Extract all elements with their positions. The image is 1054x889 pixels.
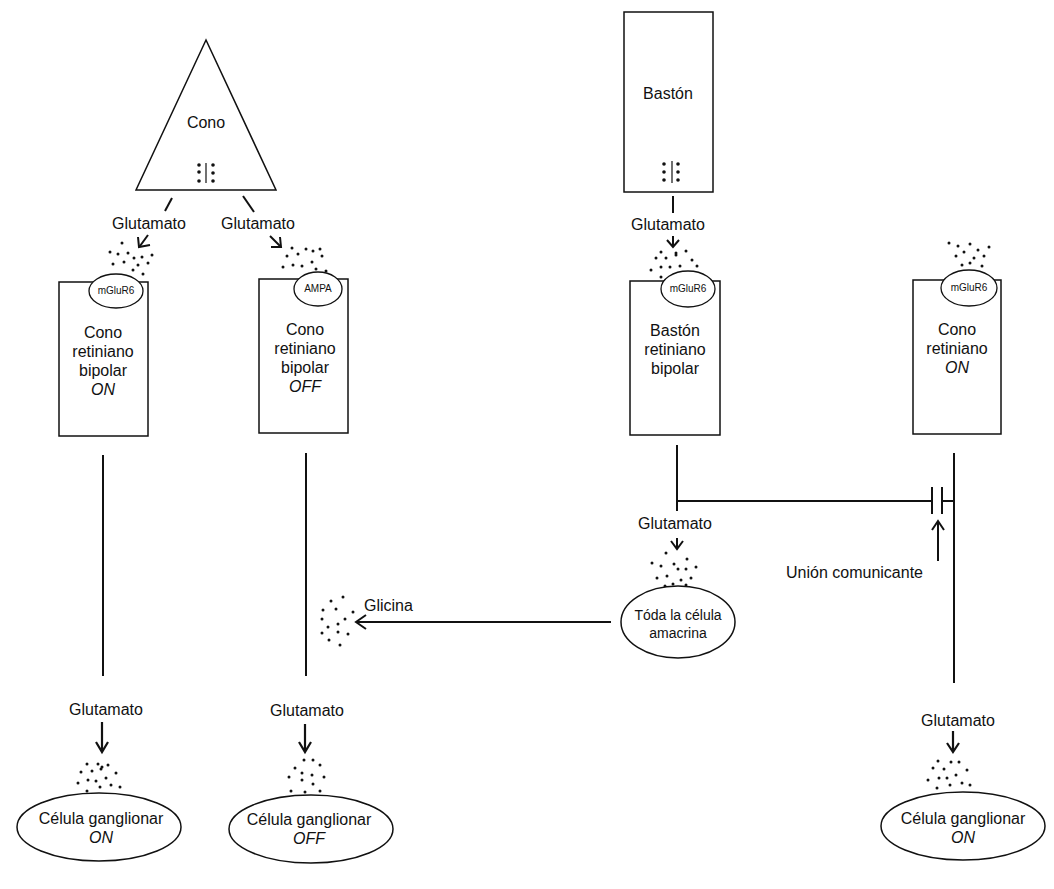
glutamate-dots bbox=[109, 242, 991, 279]
glycine-label: Glicina bbox=[364, 596, 413, 615]
glycine-dots bbox=[321, 596, 355, 647]
glutamate-label: Glutamato bbox=[270, 701, 344, 720]
receptor-label: mGluR6 bbox=[98, 285, 135, 297]
bipolar-label: ConoretinianobipolarON bbox=[72, 323, 133, 399]
gap-junction-icon bbox=[932, 487, 954, 561]
bipolar-label: Bastónretinianobipolar bbox=[644, 321, 705, 378]
receptor-label: mGluR6 bbox=[951, 282, 988, 294]
glutamate-label: Glutamato bbox=[631, 215, 705, 234]
amacrine-label: Tóda la célulaamacrina bbox=[634, 606, 721, 642]
rod-label: Bastón bbox=[643, 84, 693, 103]
cone-label: Cono bbox=[187, 113, 225, 132]
receptor-label: AMPA bbox=[304, 283, 332, 295]
bipolar-label: ConoretinianobipolarOFF bbox=[274, 320, 335, 396]
glutamate-label: Glutamato bbox=[69, 700, 143, 719]
bipolar-label: ConoretinianoON bbox=[926, 320, 987, 377]
ganglion-label: Célula ganglionarON bbox=[39, 809, 164, 847]
glutamate-label: Glutamato bbox=[221, 214, 295, 233]
receptor-label: mGluR6 bbox=[670, 283, 707, 295]
retina-circuit-diagram bbox=[0, 0, 1054, 889]
gap-junction-label: Unión comunicante bbox=[786, 563, 923, 582]
vesicles-icon bbox=[197, 163, 215, 183]
ganglion-label: Célula ganglionarON bbox=[901, 809, 1026, 847]
glutamate-label: Glutamato bbox=[112, 214, 186, 233]
vesicles-icon bbox=[662, 161, 680, 183]
ganglion-label: Célula ganglionarOFF bbox=[247, 810, 372, 848]
glutamate-label: Glutamato bbox=[921, 711, 995, 730]
glutamate-label: Glutamato bbox=[638, 514, 712, 533]
